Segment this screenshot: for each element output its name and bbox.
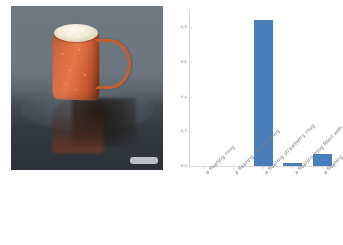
mug-reflection (52, 99, 104, 153)
product-photo (11, 6, 163, 170)
x-axis-tick-mark (203, 167, 204, 169)
mug-speckle-texture (53, 33, 100, 100)
bar-chart: 0.00.20.40.60.8 a floating muga floating… (176, 0, 343, 245)
y-axis-tick-label: 0.2 (181, 129, 190, 133)
bar-slot (219, 10, 248, 166)
screenshot-root: 0.00.20.40.60.8 a floating muga floating… (0, 0, 343, 245)
y-axis-tick-label: 0.4 (181, 95, 190, 99)
photo-watermark-badge (130, 157, 158, 164)
x-axis-tick-label: a floating ceramic mug (233, 171, 237, 175)
y-axis-tick-label: 0.0 (181, 164, 190, 168)
x-axis-tick-mark (292, 167, 293, 169)
x-axis-tick-label: a floating strawberry mug (263, 171, 267, 175)
y-axis-tick-label: 0.6 (181, 60, 190, 64)
bar-slot (190, 10, 219, 166)
mug-foam-topping (54, 24, 98, 42)
x-axis-labels: a floating muga floating ceramic muga fl… (189, 169, 337, 241)
x-axis-tick-label: a floating mug (204, 171, 208, 175)
y-axis-tick-label: 0.8 (181, 25, 190, 29)
x-axis-tick-label: a floating mug filled with strawberries (293, 171, 297, 175)
mug-body (53, 33, 100, 100)
x-axis-tick-label: a floating strawberry mug on a table (322, 171, 326, 175)
